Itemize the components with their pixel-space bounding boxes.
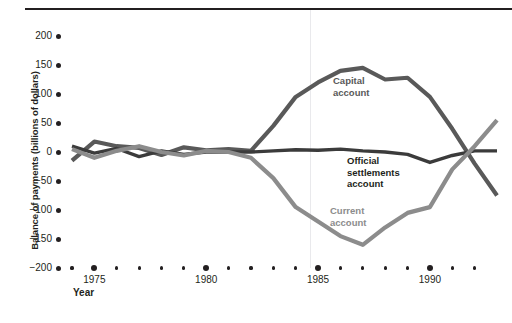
series-label-capital-account: Capital account	[333, 75, 369, 98]
series-label-current-account: Current account	[330, 205, 366, 228]
series-label-official-settlements-account: Official settlements account	[347, 155, 400, 190]
series-line-capital-account	[72, 68, 497, 196]
series-line-current-account	[72, 120, 497, 245]
x-axis-title: Year	[73, 287, 94, 298]
plot-lines	[0, 0, 512, 323]
balance-of-payments-chart: Balance of payments (billions of dollars…	[0, 0, 512, 323]
